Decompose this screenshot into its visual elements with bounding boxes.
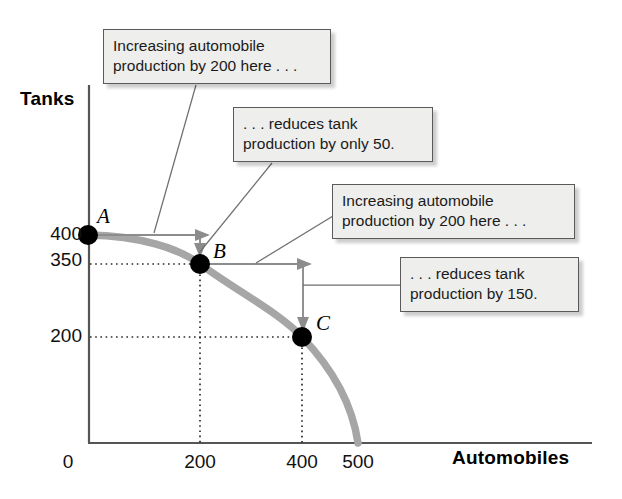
point-b-marker[interactable] <box>190 254 210 274</box>
x-tick-label-500: 500 <box>336 451 380 473</box>
ppf-curve <box>88 235 358 443</box>
point-label-b: B <box>213 239 226 264</box>
x-tick-label-200: 200 <box>178 451 222 473</box>
x-axis-title: Automobiles <box>452 447 569 469</box>
callout-increase-autos-a-to-b: Increasing automobile production by 200 … <box>103 29 331 84</box>
move-arrows-b-to-c <box>208 264 310 330</box>
y-tick-label-400: 400 <box>20 223 82 245</box>
point-c-marker[interactable] <box>292 327 312 347</box>
data-points <box>78 225 312 347</box>
callout-increase-autos-b-to-c: Increasing automobile production by 200 … <box>332 184 575 239</box>
callout-reduces-tanks-by-50: . . . reduces tank production by only 50… <box>233 107 433 162</box>
guide-lines <box>90 264 302 443</box>
point-label-c: C <box>316 311 330 336</box>
callout-reduces-tanks-by-150: . . . reduces tank production by 150. <box>400 257 579 312</box>
point-label-a: A <box>97 204 110 229</box>
y-tick-label-350: 350 <box>20 249 82 271</box>
leader-line-callout-2 <box>199 163 272 253</box>
leader-line-callout-3 <box>256 216 333 263</box>
figure-canvas: Tanks Automobiles 400 350 200 0 200 400 … <box>0 0 622 499</box>
y-axis-title: Tanks <box>20 88 75 110</box>
y-tick-label-200: 200 <box>20 325 82 347</box>
x-tick-label-400: 400 <box>280 451 324 473</box>
x-tick-label-0: 0 <box>46 451 90 473</box>
leader-line-callout-1 <box>154 85 196 233</box>
